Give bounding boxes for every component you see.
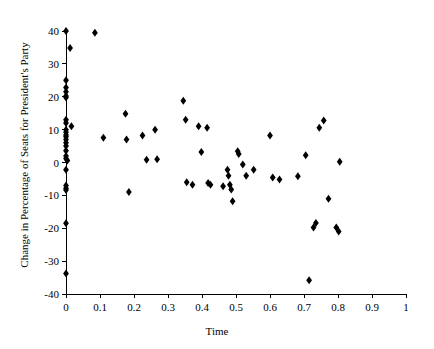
- data-point: [321, 116, 327, 124]
- data-points-group: [63, 27, 342, 284]
- x-tick-label: 0.4: [195, 301, 209, 313]
- data-point: [101, 134, 107, 142]
- data-point: [180, 97, 186, 105]
- data-point: [306, 276, 312, 284]
- data-point: [225, 166, 231, 174]
- x-tick-label: 0.2: [127, 301, 141, 313]
- y-tick-label: 20: [48, 91, 59, 103]
- axis-ticks-group: [62, 31, 406, 298]
- data-point: [251, 166, 257, 174]
- data-point: [243, 172, 249, 180]
- data-point: [190, 181, 196, 189]
- y-tick-label: -40: [44, 288, 59, 300]
- data-point: [240, 160, 246, 168]
- data-point: [270, 174, 276, 182]
- data-point: [63, 76, 69, 84]
- data-point: [337, 158, 343, 166]
- data-point: [184, 178, 190, 186]
- plot-canvas: [0, 0, 434, 349]
- y-tick-label: 0: [54, 157, 60, 169]
- data-point: [63, 270, 69, 278]
- data-point: [144, 156, 150, 164]
- data-point: [63, 219, 69, 227]
- y-tick-label: -20: [44, 222, 59, 234]
- data-point: [326, 195, 332, 203]
- y-tick-label: 30: [48, 58, 59, 70]
- data-point: [196, 122, 202, 130]
- data-point: [303, 151, 309, 159]
- data-point: [277, 176, 283, 184]
- x-axis-label: Time: [0, 325, 434, 337]
- data-point: [220, 182, 226, 190]
- data-point: [67, 44, 73, 52]
- data-point: [124, 135, 130, 143]
- scatter-plot-figure: -40-30-20-1001020304000.10.20.30.40.50.6…: [0, 0, 434, 349]
- data-point: [316, 124, 322, 132]
- data-point: [183, 116, 189, 124]
- data-point: [230, 197, 236, 205]
- x-tick-label: 0.9: [365, 301, 379, 313]
- x-tick-label: 0.6: [263, 301, 277, 313]
- axes-group: [66, 31, 406, 294]
- data-point: [63, 166, 69, 174]
- x-tick-label: 1: [403, 301, 409, 313]
- y-tick-label: 40: [48, 25, 59, 37]
- data-point: [123, 110, 129, 118]
- data-point: [126, 188, 132, 196]
- y-tick-label: -10: [44, 189, 59, 201]
- data-point: [154, 155, 160, 163]
- data-point: [69, 122, 75, 130]
- x-tick-label: 0.5: [229, 301, 243, 313]
- data-point: [92, 29, 98, 37]
- x-tick-label: 0.7: [297, 301, 311, 313]
- data-point: [63, 27, 69, 35]
- data-point: [198, 148, 204, 156]
- data-point: [152, 126, 158, 134]
- x-tick-label: 0.8: [331, 301, 345, 313]
- data-point: [140, 132, 146, 140]
- x-tick-label: 0.3: [161, 301, 175, 313]
- data-point: [295, 172, 301, 180]
- data-point: [267, 132, 273, 140]
- data-point: [226, 172, 232, 180]
- y-tick-label: 10: [48, 124, 59, 136]
- y-tick-label: -30: [44, 255, 59, 267]
- y-axis-label: Change in Percentage of Seats for Presid…: [18, 10, 34, 300]
- x-tick-label: 0.1: [93, 301, 107, 313]
- data-point: [204, 124, 210, 132]
- x-tick-label: 0: [63, 301, 69, 313]
- data-point: [63, 93, 69, 101]
